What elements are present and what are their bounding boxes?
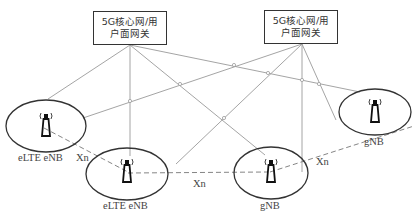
- interface-label-xn1: Xn: [76, 152, 89, 163]
- link-gw1-gnb2: [130, 45, 360, 92]
- cell-enb2: [86, 148, 168, 200]
- connection-lines: [0, 0, 414, 218]
- node-label-enb1: eLTE eNB: [18, 152, 63, 163]
- cell-gnb2: [339, 89, 411, 135]
- link-gw1-enb1: [48, 45, 130, 99]
- cell-enb1: [6, 100, 86, 152]
- gateway-label-line1: 5G核心网/用: [273, 15, 330, 27]
- xn-link-enb2-gnb1: [128, 172, 268, 173]
- node-label-enb2: eLTE eNB: [103, 200, 148, 211]
- network-architecture-diagram: 5G核心网/用 户面网关 5G核心网/用 户面网关 eLTE eNB eLTE …: [0, 0, 414, 218]
- cell-gnb1: [234, 147, 308, 199]
- gateway-box-1: 5G核心网/用 户面网关: [93, 11, 167, 45]
- interface-label-xn2: Xn: [193, 178, 206, 189]
- node-label-gnb2: gNB: [364, 136, 384, 147]
- gateway-box-2: 5G核心网/用 户面网关: [264, 10, 338, 44]
- interface-label-xn3: Xn: [316, 156, 329, 167]
- node-label-gnb1: gNB: [260, 200, 280, 211]
- link-gw2-enb1: [83, 44, 302, 118]
- antenna-icon: [40, 99, 381, 182]
- gateway-label-line2: 户面网关: [110, 28, 150, 40]
- link-gw1-gnb1: [130, 45, 265, 155]
- link-gw2-enb2: [176, 44, 302, 164]
- gateway-label-line2: 户面网关: [281, 27, 321, 39]
- xn-link-gnb1-gnb2: [270, 126, 414, 172]
- xn-link-enb1-enb2: [44, 128, 128, 172]
- gateway-label-line1: 5G核心网/用: [102, 16, 159, 28]
